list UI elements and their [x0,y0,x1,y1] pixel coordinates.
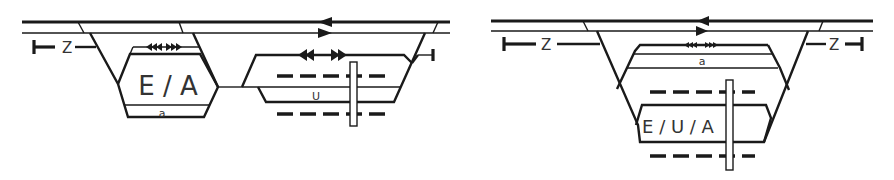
footbridge [726,80,733,170]
track-label-a: a [699,55,706,68]
crossover [78,22,84,33]
track-label-a: a [159,107,166,120]
track-upper [617,45,768,89]
arrow-left-icon [697,16,709,26]
left-station-diagram: Z a E / A [22,17,450,126]
right-station-diagram: Z Z a E / U / A [491,16,873,170]
crossover [433,22,438,33]
arrow-right-icon [696,26,708,36]
yard-lower-track [258,33,425,102]
stub-label-right: Z [829,36,839,54]
stub-label: Z [62,39,72,57]
footbridge [350,62,357,126]
platform-label: E / U / A [642,116,715,137]
platform-label: E / A [138,71,198,101]
crossover [179,22,183,33]
yard-upper-track [242,55,412,87]
arrow-right-icon [318,28,332,38]
track-label-u: U [312,90,320,103]
arrow-left-icon [318,17,332,27]
stub-label-left: Z [541,36,551,54]
station-track-diagrams: Z a E / A [0,0,894,180]
